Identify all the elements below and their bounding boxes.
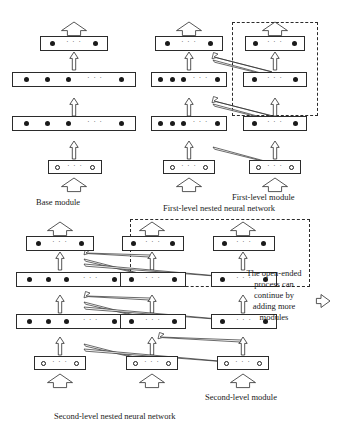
ellipsis: · · · — [52, 359, 68, 366]
neuron-filled — [170, 77, 175, 82]
neuron-filled — [46, 277, 51, 282]
layer-sl-col3-input: · · · — [217, 356, 269, 370]
layer-fl-colA-hidden2: · · · — [151, 72, 227, 87]
neuron-filled — [79, 241, 84, 246]
wide-up-arrow-fl-colB-output — [263, 22, 288, 36]
wide-up-arrow-sl-col3-input — [231, 374, 256, 388]
open-ended-process-note: The open-ended process can continue by a… — [228, 268, 320, 323]
up-arrow-fl-colB-out — [271, 52, 279, 70]
neuron-filled — [119, 77, 124, 82]
ellipsis: · · · — [181, 163, 197, 170]
neuron-filled — [27, 319, 32, 324]
neuron-filled — [181, 77, 186, 82]
diagonal-arrow-sl-b3 — [84, 292, 150, 301]
neuron-filled — [46, 319, 51, 324]
neuron-filled — [261, 241, 266, 246]
neuron-filled — [292, 41, 297, 46]
blurb-line-1: The open-ended — [228, 268, 320, 279]
diagonal-arrow-sl-c3 — [158, 333, 241, 343]
neuron-filled — [24, 77, 29, 82]
ellipsis: · · · — [145, 239, 161, 246]
neuron-filled — [293, 121, 298, 126]
neuron-filled — [215, 77, 220, 82]
up-arrow-fl-colA-out — [185, 52, 193, 70]
neuron-filled — [64, 277, 69, 282]
up-arrow-sl-col1-h2 — [56, 295, 64, 313]
neuron-hollow — [90, 165, 95, 170]
neuron-filled — [165, 41, 170, 46]
ellipsis: · · · — [145, 317, 161, 324]
neuron-filled — [112, 319, 117, 324]
neuron-filled — [50, 41, 55, 46]
neuron-hollow — [74, 361, 79, 366]
neuron-filled — [181, 121, 186, 126]
layer-sl-col1-input: · · · — [34, 356, 86, 370]
up-arrow-fl-colA-h2 — [185, 98, 193, 116]
caption-second-level-network: Second-level nested neural network — [54, 411, 176, 422]
ellipsis: · · · — [236, 239, 252, 246]
neuron-filled — [24, 121, 29, 126]
caption-second-level-module: Second-level module — [205, 392, 277, 403]
layer-fl-colB-output: · · · — [245, 36, 305, 51]
layer-fl-colB-hidden2: · · · — [243, 72, 307, 87]
neuron-filled — [172, 319, 177, 324]
neuron-filled — [170, 241, 175, 246]
neuron-filled — [129, 277, 134, 282]
figure-canvas: · · · · · · · · · · · · Base module · · … — [0, 0, 342, 426]
ellipsis: · · · — [235, 359, 251, 366]
layer-sl-col2-input: · · · — [126, 356, 178, 370]
wide-up-arrow-base-top — [62, 178, 87, 192]
neuron-hollow — [256, 165, 261, 170]
ellipsis: · · · — [267, 163, 283, 170]
layer-sl-col1-hidden1: · · · — [16, 314, 128, 329]
layer-base-hidden1: · · · — [12, 116, 136, 131]
neuron-filled — [93, 41, 98, 46]
neuron-filled — [112, 277, 117, 282]
caption-first-level-module: First-level module — [232, 192, 295, 203]
neuron-filled — [45, 77, 50, 82]
blurb-line-4: adding more — [228, 301, 320, 312]
neuron-filled — [158, 121, 163, 126]
caption-first-level-network: First-level nested neural network — [163, 203, 275, 214]
neuron-hollow — [170, 165, 175, 170]
neuron-filled — [45, 121, 50, 126]
layer-base-input: · · · — [48, 160, 102, 174]
neuron-filled — [119, 121, 124, 126]
neuron-filled — [222, 241, 227, 246]
wide-up-arrow-sl-col1-input — [48, 374, 73, 388]
neuron-filled — [36, 241, 41, 246]
ellipsis: · · · — [66, 39, 82, 46]
neuron-filled — [170, 121, 175, 126]
neuron-filled — [220, 277, 225, 282]
ellipsis: · · · — [267, 39, 283, 46]
layer-sl-col2-hidden2: · · · — [120, 272, 186, 287]
wide-up-arrow-fl-colA-output — [177, 22, 202, 36]
blurb-line-5: modules — [228, 312, 320, 323]
up-arrow-base-h1 — [70, 141, 78, 159]
neuron-filled — [215, 121, 220, 126]
caption-base-module: Base module — [36, 197, 80, 208]
wide-up-arrow-sl-col3-output — [231, 222, 256, 236]
layer-fl-colB-input: · · · — [249, 160, 301, 174]
up-arrow-sl-col1-out — [56, 252, 64, 270]
ellipsis: · · · — [181, 39, 197, 46]
up-arrow-fl-colB-h2 — [271, 98, 279, 116]
wide-up-arrow-base-output — [62, 22, 87, 36]
neuron-filled — [158, 77, 163, 82]
blurb-line-3: continue by — [228, 290, 320, 301]
neuron-filled — [253, 41, 258, 46]
neuron-filled — [172, 277, 177, 282]
ellipsis: · · · — [267, 75, 283, 82]
neuron-filled — [252, 77, 257, 82]
neuron-hollow — [133, 361, 138, 366]
ellipsis: · · · — [67, 163, 83, 170]
ellipsis: · · · — [52, 239, 68, 246]
wide-up-arrow-fl-colB-input — [263, 178, 288, 192]
layer-fl-colA-input: · · · — [163, 160, 215, 174]
neuron-hollow — [41, 361, 46, 366]
wide-up-arrow-sl-col1-output — [48, 222, 73, 236]
ellipsis: · · · — [144, 359, 160, 366]
layer-fl-colA-output: · · · — [155, 36, 223, 51]
ellipsis: · · · — [145, 275, 161, 282]
blurb-line-2: process can — [228, 279, 320, 290]
